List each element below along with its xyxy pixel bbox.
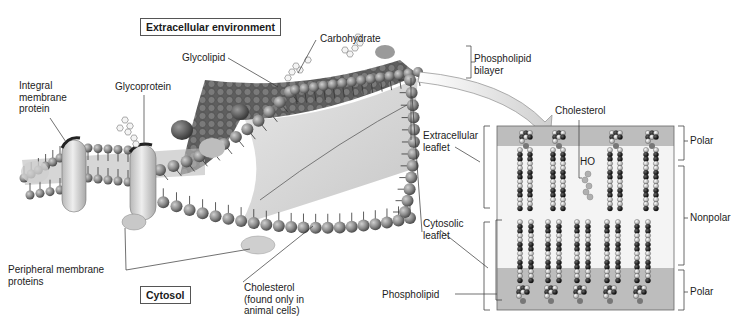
extracellular-label: Extracellular environment bbox=[140, 18, 281, 36]
carbohydrate-label: Carbohydrate bbox=[320, 33, 381, 45]
glycoprotein-label: Glycoprotein bbox=[115, 81, 171, 93]
cholesterol-animal-label: Cholesterol (found only in animal cells) bbox=[244, 282, 304, 317]
extracellular-leaflet-label: Extracellular leaflet bbox=[423, 130, 478, 153]
cytosol-label: Cytosol bbox=[140, 286, 191, 304]
inset-phospholipid-label: Phospholipid bbox=[382, 289, 439, 301]
integral-protein-label: Integral membrane protein bbox=[19, 80, 67, 115]
membrane-illustration bbox=[0, 0, 750, 328]
peripheral-protein bbox=[241, 236, 275, 254]
nonpolar-label: Nonpolar bbox=[690, 212, 731, 224]
cytosolic-leaflet-label: Cytosolic leaflet bbox=[423, 218, 464, 241]
membrane-diagram: Extracellular environment Cytosol Integr… bbox=[0, 0, 750, 328]
peripheral-proteins-label: Peripheral membrane proteins bbox=[8, 264, 104, 287]
glycolipid-label: Glycolipid bbox=[182, 52, 225, 64]
phospholipid-bilayer-label: Phospholipid bilayer bbox=[474, 53, 531, 76]
polar-top-label: Polar bbox=[690, 135, 713, 147]
inset-cholesterol-label: Cholesterol bbox=[555, 105, 606, 117]
ho-label: HO bbox=[580, 156, 595, 168]
bilayer-inset bbox=[484, 120, 688, 310]
integral-membrane-protein bbox=[62, 138, 86, 212]
polar-bottom-label: Polar bbox=[690, 286, 713, 298]
